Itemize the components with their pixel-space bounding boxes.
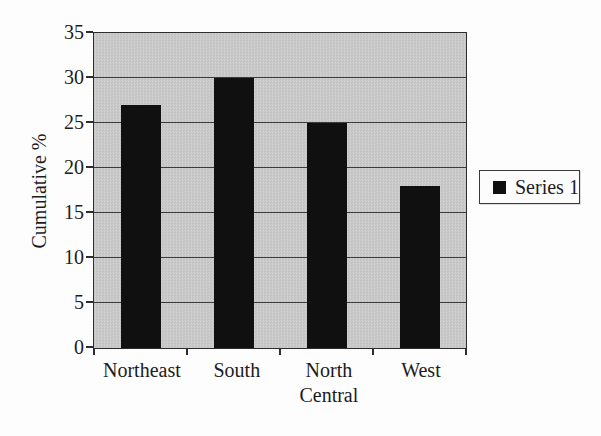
y-tick-mark-20 — [86, 166, 93, 168]
y-tick-mark-35 — [86, 31, 93, 33]
x-tick-mark-0 — [93, 349, 95, 355]
x-tick-mark-4 — [465, 349, 467, 355]
legend-label-series1: Series 1 — [515, 176, 579, 198]
gridline-30 — [94, 77, 466, 78]
y-tick-label-10: 10 — [20, 246, 84, 268]
y-tick-label-25: 25 — [20, 111, 84, 133]
x-label-northeast: Northeast — [93, 358, 191, 408]
x-tick-mark-2 — [279, 349, 281, 355]
bar-south — [214, 78, 254, 348]
y-tick-mark-25 — [86, 121, 93, 123]
y-tick-label-5: 5 — [20, 291, 84, 313]
bar-west — [400, 186, 440, 348]
bar-northeast — [121, 105, 161, 348]
y-tick-label-30: 30 — [20, 66, 84, 88]
x-tick-mark-3 — [372, 349, 374, 355]
legend-marker-series1-icon — [493, 181, 506, 194]
x-label-west: West — [375, 358, 467, 408]
y-tick-mark-5 — [86, 301, 93, 303]
y-tick-mark-10 — [86, 256, 93, 258]
y-tick-mark-0 — [86, 346, 93, 348]
plot-area — [93, 32, 467, 349]
y-tick-mark-15 — [86, 211, 93, 213]
y-tick-label-35: 35 — [20, 21, 84, 43]
bar-north-central — [307, 123, 347, 348]
x-tick-mark-1 — [186, 349, 188, 355]
y-tick-mark-30 — [86, 76, 93, 78]
y-tick-label-0: 0 — [20, 336, 84, 358]
x-label-south: South — [191, 358, 283, 408]
x-label-north-central: North Central — [283, 358, 375, 408]
legend: Series 1 — [479, 170, 580, 204]
x-axis-labels: NortheastSouthNorth CentralWest — [93, 358, 467, 408]
y-tick-label-20: 20 — [20, 156, 84, 178]
bar-chart: Cumulative % 05101520253035 NortheastSou… — [0, 0, 601, 436]
y-tick-label-15: 15 — [20, 201, 84, 223]
